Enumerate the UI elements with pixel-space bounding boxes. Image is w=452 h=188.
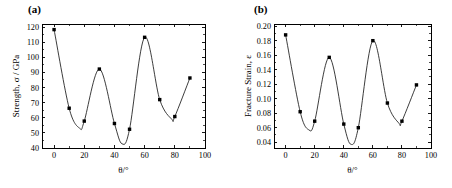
x-tick-label: 40 [340,151,348,160]
y-tick-label: 100 [27,53,39,62]
y-tick-label: 0.20 [257,22,271,31]
data-point-marker [188,76,191,79]
x-tick-label: 80 [398,151,406,160]
y-tick-label: 110 [27,38,39,47]
x-tick-label: 20 [311,151,319,160]
y-tick-label: 50 [31,129,39,138]
y-tick-label: 0.14 [257,66,271,75]
data-curve [286,35,417,145]
data-point-marker [98,67,101,70]
data-point-marker [284,33,287,36]
data-point-marker [128,128,131,131]
data-point-marker [328,56,331,59]
y-tick-label: 0.16 [257,51,271,60]
y-tick-label: 0.06 [257,124,271,133]
y-tick-label: 120 [27,23,39,32]
data-point-marker [400,119,403,122]
data-point-marker [113,122,116,125]
x-tick-label: 60 [141,151,149,160]
data-point-marker [415,83,418,86]
x-tick-label: 0 [52,151,56,160]
panel-b-fracture-strain: (b) Fracture Strain, ε θ/° 0204060801000… [226,0,452,188]
x-tick-label: 100 [199,151,211,160]
panel-a-strength: (a) Strength, σ / GPa θ/° 02040608010040… [0,0,226,188]
data-point-marker [158,98,161,101]
data-point-marker [357,126,360,129]
x-tick-label: 20 [80,151,88,160]
y-tick-label: 90 [31,68,39,77]
data-point-marker [313,119,316,122]
x-tick-label: 80 [171,151,179,160]
y-tick-label: 60 [31,114,39,123]
y-tick-label: 0.18 [257,37,271,46]
data-point-marker [52,28,55,31]
data-point-marker [342,122,345,125]
data-curve [54,30,190,145]
panel-b-plot: 0204060801000.040.060.080.100.120.140.16… [226,0,452,188]
y-tick-label: 80 [31,84,39,93]
y-tick-label: 0.12 [257,80,271,89]
x-tick-label: 60 [369,151,377,160]
y-tick-label: 70 [31,99,39,108]
y-tick-label: 0.10 [257,95,271,104]
data-point-marker [371,39,374,42]
data-point-marker [298,110,301,113]
figure-container: (a) Strength, σ / GPa θ/° 02040608010040… [0,0,452,188]
panel-a-plot: 020406080100405060708090100110120 [0,0,226,188]
data-point-marker [83,119,86,122]
data-point-marker [386,101,389,104]
y-tick-label: 40 [31,144,39,153]
x-tick-label: 100 [425,151,437,160]
y-tick-label: 0.04 [257,138,271,147]
y-tick-label: 0.08 [257,109,271,118]
data-point-marker [173,115,176,118]
x-tick-label: 40 [110,151,118,160]
x-tick-label: 0 [284,151,288,160]
data-point-marker [67,107,70,110]
data-point-marker [143,36,146,39]
